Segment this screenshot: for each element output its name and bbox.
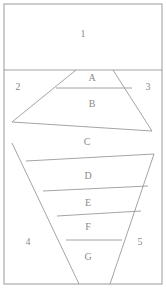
region-label-5: 5: [138, 236, 143, 247]
layer-label-a: A: [88, 72, 96, 83]
layer-label-f: F: [85, 221, 91, 232]
layer-label-d: D: [84, 170, 91, 181]
diagram-figure: 1 2 3 4 5 A B C D E F G: [0, 0, 166, 288]
region-label-3: 3: [146, 81, 151, 92]
region-label-1: 1: [81, 28, 86, 39]
layer-label-b: B: [89, 98, 96, 109]
region-label-2: 2: [16, 81, 21, 92]
layer-label-g: G: [84, 251, 91, 262]
diagram-canvas: 1 2 3 4 5 A B C D E F G: [0, 0, 166, 288]
layer-label-e: E: [85, 197, 91, 208]
layer-label-c: C: [84, 136, 91, 147]
region-label-4: 4: [26, 236, 31, 247]
